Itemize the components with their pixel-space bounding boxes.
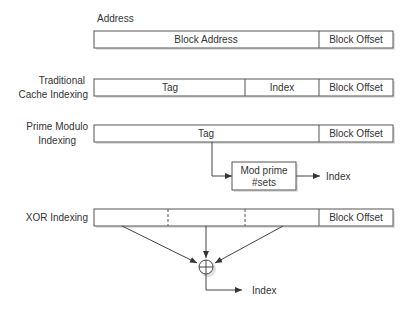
prime-index-output: Index [326,171,350,182]
field-tag: Tag [198,128,214,139]
traditional-label-1: Traditional [39,75,85,86]
xor-operator-icon [199,260,216,277]
prime-label-1: Prime Modulo [26,121,88,132]
mod-box-line1: Mod prime [240,165,288,176]
mod-prime-box: Mod prime #sets [232,162,298,192]
field-block-address: Block Address [174,34,237,45]
address-row: Block Address Block Offset [94,31,395,50]
field-block-offset: Block Offset [329,34,383,45]
traditional-label-2: Cache Indexing [19,89,89,100]
prime-modulo-row: Prime Modulo Indexing Tag Block Offset M… [26,121,395,192]
mod-box-line2: #sets [252,177,276,188]
xor-index-output: Index [252,285,276,296]
field-index: Index [270,82,294,93]
field-block-offset: Block Offset [329,128,383,139]
field-block-offset: Block Offset [329,212,383,223]
field-tag: Tag [162,82,178,93]
xor-label: XOR Indexing [26,212,88,223]
address-title: Address [97,13,134,24]
field-block-offset: Block Offset [329,82,383,93]
traditional-row: Traditional Cache Indexing Tag Index Blo… [19,75,396,100]
xor-row: XOR Indexing Block Offset Index [26,209,395,296]
cache-indexing-diagram: Address Block Address Block Offset Tradi… [0,0,415,311]
prime-label-2: Indexing [38,135,76,146]
